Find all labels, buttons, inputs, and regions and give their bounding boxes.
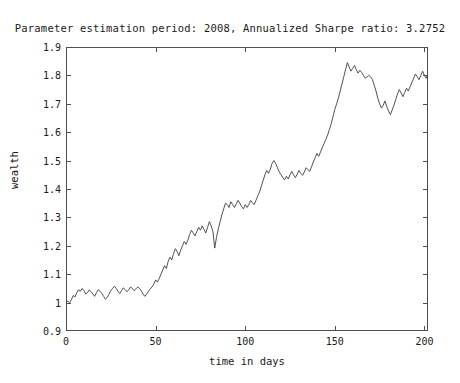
x-tick-mark	[424, 326, 425, 331]
y-tick-mark	[66, 189, 71, 190]
y-tick-mark	[66, 217, 71, 218]
chart-figure: Parameter estimation period: 2008, Annua…	[0, 0, 460, 383]
x-tick-label: 100	[236, 336, 254, 347]
y-tick-mark	[423, 189, 428, 190]
y-tick-mark	[66, 274, 71, 275]
y-tick-label: 1.7	[43, 98, 61, 109]
y-tick-label: 1.1	[43, 269, 61, 280]
x-tick-mark	[245, 47, 246, 52]
y-tick-mark	[66, 303, 71, 304]
y-tick-mark	[66, 104, 71, 105]
y-tick-mark	[423, 132, 428, 133]
x-tick-label: 200	[415, 336, 433, 347]
x-axis-label: time in days	[66, 355, 428, 367]
y-tick-label: 1.9	[43, 42, 61, 53]
y-tick-mark	[66, 161, 71, 162]
y-tick-mark	[423, 303, 428, 304]
y-tick-mark	[423, 217, 428, 218]
y-tick-mark	[423, 75, 428, 76]
y-tick-mark	[423, 246, 428, 247]
x-tick-label: 150	[326, 336, 344, 347]
x-tick-label: 0	[63, 336, 69, 347]
chart-title: Parameter estimation period: 2008, Annua…	[0, 22, 460, 34]
wealth-polyline	[66, 63, 428, 303]
y-tick-label: 1.5	[43, 155, 61, 166]
x-axis-tick-labels: 050100150200	[66, 336, 428, 352]
x-tick-mark	[335, 47, 336, 52]
x-tick-mark	[156, 47, 157, 52]
wealth-line-series	[66, 47, 428, 331]
y-tick-label: 1.3	[43, 212, 61, 223]
y-tick-label: 1.6	[43, 127, 61, 138]
y-axis-tick-labels: 0.911.11.21.31.41.51.61.71.81.9	[14, 47, 61, 331]
y-tick-mark	[423, 161, 428, 162]
x-tick-mark	[335, 326, 336, 331]
y-tick-label: 0.9	[43, 326, 61, 337]
x-tick-mark	[424, 47, 425, 52]
y-tick-mark	[66, 246, 71, 247]
y-tick-label: 1.4	[43, 184, 61, 195]
y-tick-label: 1	[55, 297, 61, 308]
y-tick-mark	[66, 75, 71, 76]
x-tick-label: 50	[150, 336, 162, 347]
y-tick-mark	[423, 104, 428, 105]
x-tick-mark	[156, 326, 157, 331]
plot-area	[66, 47, 428, 331]
y-tick-mark	[66, 132, 71, 133]
x-tick-mark	[245, 326, 246, 331]
y-tick-label: 1.8	[43, 70, 61, 81]
y-tick-label: 1.2	[43, 240, 61, 251]
y-tick-mark	[423, 274, 428, 275]
